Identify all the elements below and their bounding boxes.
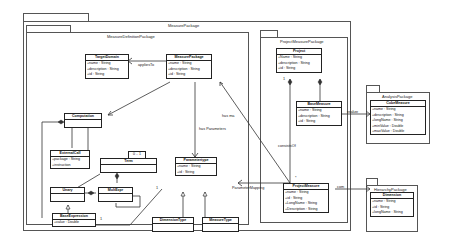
mult-pm-star: * <box>295 176 296 180</box>
class-external-call: ExternalCall +package : String +instruct… <box>50 150 90 169</box>
mult-project-one: 1 <box>283 77 285 81</box>
class-mult-expr: MultExpr <box>98 187 133 202</box>
label-parameter-mapping: ParameterMapping <box>232 186 264 190</box>
class-computation: Computation <box>64 113 102 128</box>
class-project: Project +Name : String +description : St… <box>276 48 322 73</box>
label-realize: realize <box>347 110 358 114</box>
label-com: com <box>337 185 344 189</box>
label-consists-of: consistsOf <box>278 144 296 148</box>
class-target-domain: TargetDomain +name : String +description… <box>85 54 129 79</box>
class-project-measure: ProjectMeasure +name : String +id : Stri… <box>283 183 329 213</box>
class-base-measure: BaseMeasure +name : String +description … <box>296 101 342 126</box>
class-dimension: Dimension +name : String +id : String +l… <box>370 192 414 217</box>
class-dimension-type: DimensionType <box>152 217 194 232</box>
class-parameter-type: Parametertype +name : String +id : Strin… <box>175 157 217 176</box>
class-unary: Unary <box>50 187 85 202</box>
label-applies-to: appliesTo <box>138 63 154 67</box>
class-base-expression: BaseExpression +value : Double <box>52 213 96 227</box>
class-term: Term <box>100 158 157 173</box>
class-measure-type: MeasureType <box>202 217 239 232</box>
label-has-ma: has ma <box>222 114 234 118</box>
mult-param-one: 1 <box>156 186 158 190</box>
mult-base-expr-one: 1 <box>100 217 102 221</box>
label-has-parameters: has Parameters <box>199 127 226 131</box>
class-measure-package: MeasurePackage +name : String +descripti… <box>166 54 212 79</box>
class-cube-measure: CubeMeasure +name : String +description … <box>370 100 426 135</box>
